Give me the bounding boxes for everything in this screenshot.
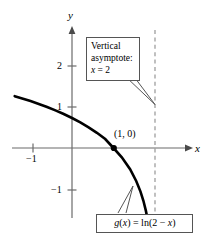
function-close-paren: ) [172, 217, 175, 228]
x-axis-label: x [195, 142, 200, 155]
y-tick-label-2: 2 [57, 60, 62, 72]
x-axis [12, 145, 193, 152]
function-body: ) = ln(2 − [127, 217, 168, 228]
y-tick-label-1: 1 [57, 101, 62, 113]
log-function-graph-figure: y x −1 2 1 −1 (1, 0) Vertical asymptote:… [0, 0, 206, 242]
y-axis [69, 26, 76, 218]
asymptote-callout-box: Vertical asymptote: x = 2 [86, 37, 140, 81]
x-tick-label-neg1: −1 [26, 153, 37, 165]
y-tick-label-neg1: −1 [51, 184, 62, 196]
asymptote-value: = 2 [95, 65, 110, 75]
asymptote-callout-line1: Vertical [91, 41, 135, 53]
asymptote-callout-line2: asymptote: [91, 53, 135, 65]
asymptote-callout-line3: x = 2 [91, 65, 135, 77]
intercept-point-marker [111, 145, 117, 151]
y-axis-label: y [68, 9, 73, 22]
function-callout-leader [118, 186, 133, 213]
intercept-point-label: (1, 0) [114, 128, 136, 140]
axis-ticks [33, 66, 77, 190]
function-callout-box: g(x) = ln(2 − x) [96, 214, 193, 233]
